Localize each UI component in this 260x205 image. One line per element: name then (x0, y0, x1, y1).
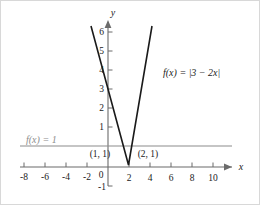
x-tick-label: 6 (169, 173, 174, 183)
absolute-value-curve-label: f(x) = |3 − 2x| (163, 67, 220, 79)
y-tick-label: 5 (99, 46, 104, 56)
constant-function-label: f(x) = 1 (26, 134, 57, 146)
y-tick-label: 2 (99, 103, 104, 113)
y-axis-label: y (110, 7, 116, 18)
intersection-point-label-right: (2, 1) (138, 149, 159, 160)
x-tick-label: 10 (208, 173, 218, 183)
x-tick-label: -8 (20, 172, 28, 182)
y-tick-label: 1 (99, 122, 104, 132)
y-tick-label: 6 (99, 27, 104, 37)
intersection-point-label-left: (1, 1) (90, 149, 111, 160)
x-tick-label: 2 (127, 173, 132, 183)
x-tick-label-origin: 0 (99, 170, 104, 180)
x-tick-label: 8 (190, 173, 195, 183)
x-tick-label: 4 (148, 173, 153, 183)
y-tick-label: 3 (99, 84, 104, 94)
y-tick-label: 4 (99, 65, 104, 75)
x-tick-label: -4 (62, 172, 70, 182)
x-axis-label: x (238, 161, 244, 172)
coordinate-plot: -8 -6 -4 -2 0 2 4 6 8 10 6 5 4 3 2 1 -1 … (0, 0, 260, 205)
x-tick-label: -6 (41, 172, 49, 182)
graph-figure: -8 -6 -4 -2 0 2 4 6 8 10 6 5 4 3 2 1 -1 … (0, 0, 260, 205)
y-tick-label-negative-one: -1 (98, 182, 106, 192)
x-tick-label: -2 (83, 172, 91, 182)
